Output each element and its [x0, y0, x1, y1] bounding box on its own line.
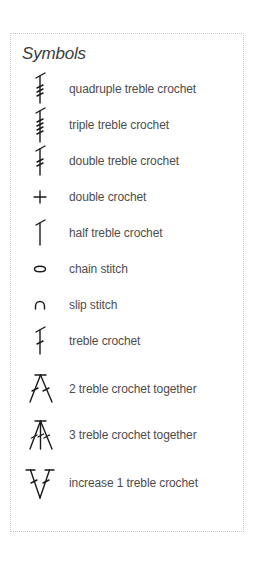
legend-label: 2 treble crochet together [69, 382, 197, 396]
two-treble-together-icon [23, 369, 59, 409]
symbols-legend: Symbols quadruple treble crochet [10, 33, 244, 532]
slip-stitch-icon [23, 285, 59, 325]
legend-title: Symbols [22, 44, 86, 64]
legend-label: quadruple treble crochet [69, 82, 196, 96]
half-treble-crochet-icon [23, 213, 59, 253]
three-treble-together-icon [23, 415, 59, 455]
legend-label: increase 1 treble crochet [69, 476, 198, 490]
legend-label: double crochet [69, 190, 146, 204]
triple-treble-crochet-icon [23, 105, 59, 145]
legend-label: chain stitch [69, 262, 128, 276]
quadruple-treble-crochet-icon [23, 69, 59, 109]
legend-label: 3 treble crochet together [69, 428, 197, 442]
increase-treble-icon [23, 463, 59, 503]
chain-stitch-icon [23, 249, 59, 289]
double-treble-crochet-icon [23, 141, 59, 181]
legend-label: slip stitch [69, 298, 117, 312]
legend-label: triple treble crochet [69, 118, 169, 132]
treble-crochet-icon [23, 321, 59, 361]
legend-label: treble crochet [69, 334, 140, 348]
legend-label: half treble crochet [69, 226, 163, 240]
legend-label: double treble crochet [69, 154, 179, 168]
double-crochet-icon [23, 177, 59, 217]
